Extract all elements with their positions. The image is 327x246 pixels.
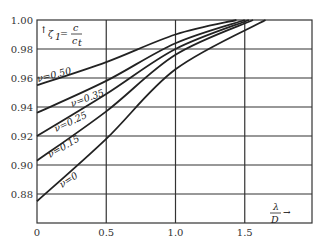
y-tick-label: 0.94	[11, 102, 33, 113]
zeta-symbol: ζ	[48, 28, 54, 39]
x-tick-label: 1.5	[237, 227, 253, 238]
chart: 0.880.900.920.940.960.981.0000.51.01.5 ν…	[0, 0, 327, 246]
svg-text:D: D	[270, 214, 279, 225]
curve-label: ν=0.25	[52, 109, 88, 134]
x-tick-label: 0.5	[98, 227, 114, 238]
y-axis-label: ↑ ζ 1 = c c t	[40, 22, 82, 48]
curve-label: ν=0.15	[46, 133, 82, 160]
svg-text:c: c	[73, 22, 79, 33]
up-arrow-icon: ↑	[40, 25, 48, 35]
right-arrow-icon: →	[283, 207, 291, 217]
svg-text:=: =	[60, 28, 68, 39]
x-tick-label: 1.0	[168, 227, 184, 238]
y-tick-label: 0.92	[11, 131, 33, 142]
svg-text:t: t	[78, 37, 82, 48]
y-tick-label: 0.90	[11, 160, 33, 171]
y-tick-label: 0.96	[11, 73, 33, 84]
curve-label: ν=0.50	[36, 65, 73, 84]
y-tick-label: 0.98	[11, 44, 33, 55]
curve-labels: ν=0.50ν=0.35ν=0.25ν=0.15ν=0	[36, 65, 106, 190]
x-tick-label: 0	[34, 227, 40, 238]
svg-text:λ: λ	[272, 201, 279, 212]
curve-label: ν=0	[57, 170, 80, 190]
y-tick-label: 1.00	[11, 15, 33, 26]
tick-labels: 0.880.900.920.940.960.981.0000.51.01.5	[11, 15, 253, 239]
y-tick-label: 0.88	[11, 189, 33, 200]
x-axis-label: λ D →	[270, 201, 291, 225]
